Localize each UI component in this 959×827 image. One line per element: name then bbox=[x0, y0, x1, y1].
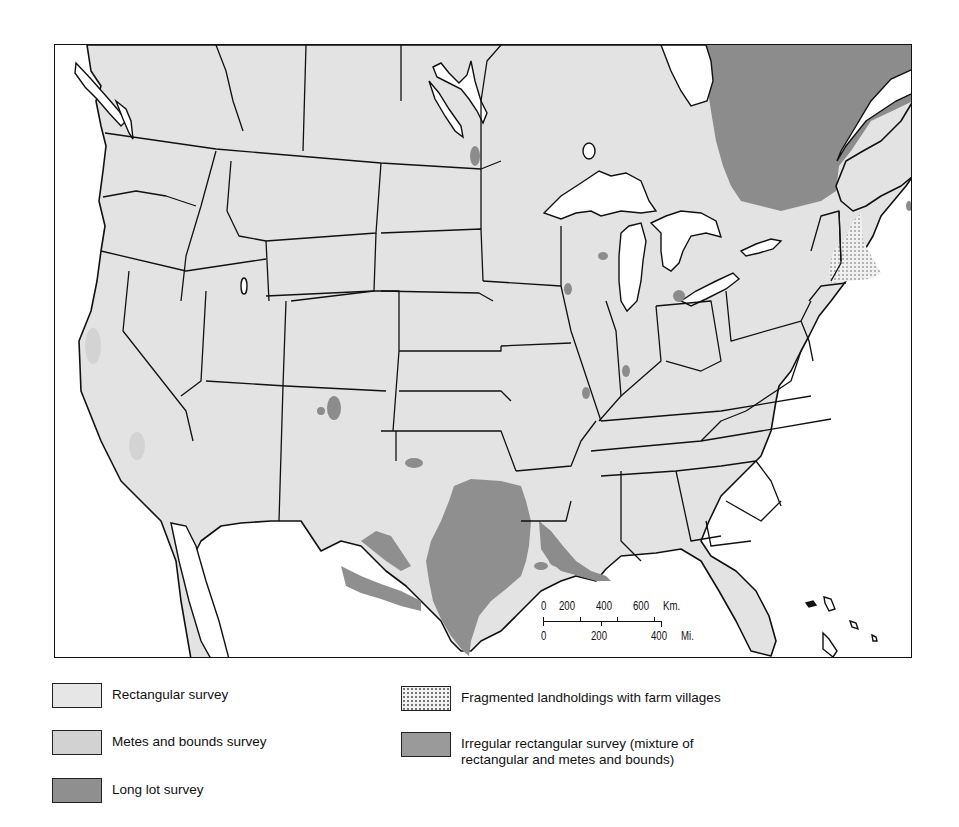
legend-item-rectangular: Rectangular survey bbox=[52, 683, 228, 708]
fragmented-swatch bbox=[401, 686, 451, 711]
legend-label: Metes and bounds survey bbox=[112, 734, 267, 750]
longlot-swatch bbox=[52, 778, 102, 803]
scale-tick bbox=[580, 617, 581, 622]
kaskaskia-long-lot bbox=[582, 387, 590, 399]
california-metes-patch bbox=[85, 328, 101, 364]
scale-km-200: 200 bbox=[559, 599, 575, 613]
island bbox=[806, 601, 816, 607]
island bbox=[824, 597, 835, 611]
detroit-long-lot bbox=[673, 290, 685, 302]
legend-item-irregular: Irregular rectangular survey (mixture of… bbox=[401, 732, 694, 768]
california-metes-patch2 bbox=[129, 432, 145, 460]
louisiana-long-lot-patch2 bbox=[534, 562, 548, 570]
legend-label: Fragmented landholdings with farm villag… bbox=[461, 690, 721, 706]
new-mexico-long-lot-small bbox=[317, 407, 325, 415]
legend-label-line1: Irregular rectangular survey (mixture of bbox=[461, 736, 694, 752]
scale-km-unit: Km. bbox=[663, 599, 680, 613]
scale-line bbox=[543, 621, 661, 622]
maine-long-lot bbox=[906, 201, 912, 211]
metes-swatch bbox=[52, 730, 102, 755]
scale-mi-400: 400 bbox=[651, 629, 667, 643]
legend-label: Irregular rectangular survey (mixture of… bbox=[461, 736, 694, 768]
vincennes-long-lot bbox=[622, 365, 630, 377]
legend-label: Long lot survey bbox=[112, 782, 204, 798]
scale-km-0: 0 bbox=[541, 599, 546, 613]
legend-item-fragmented: Fragmented landholdings with farm villag… bbox=[401, 686, 721, 711]
new-mexico-long-lot bbox=[327, 396, 341, 420]
scale-bar: 0 200 400 600 Km. 0 200 400 Mi. bbox=[541, 599, 721, 655]
survey-map bbox=[54, 44, 912, 658]
scale-tick bbox=[543, 617, 544, 626]
scale-km-600: 600 bbox=[633, 599, 649, 613]
scale-tick bbox=[601, 621, 602, 626]
scale-tick bbox=[654, 617, 655, 622]
louisiana-long-lot-patch bbox=[549, 555, 569, 567]
rectangular-swatch bbox=[52, 683, 102, 708]
irregular-swatch bbox=[401, 732, 451, 757]
scale-mi-unit: Mi. bbox=[681, 629, 694, 643]
island bbox=[850, 621, 858, 629]
map-frame: 0 200 400 600 Km. 0 200 400 Mi. bbox=[54, 44, 912, 658]
scale-km-400: 400 bbox=[596, 599, 612, 613]
scale-mi-0: 0 bbox=[541, 629, 546, 643]
great-salt-lake bbox=[241, 278, 247, 294]
lake-nipigon bbox=[583, 143, 595, 159]
scale-mi-200: 200 bbox=[591, 629, 607, 643]
island bbox=[872, 635, 877, 641]
red-river-long-lot bbox=[470, 146, 480, 166]
legend-label: Rectangular survey bbox=[112, 687, 228, 703]
legend-label-line2: rectangular and metes and bounds) bbox=[461, 752, 694, 768]
scale-tick bbox=[661, 621, 662, 627]
scale-tick bbox=[617, 617, 618, 622]
texas-panhandle-patch bbox=[405, 458, 423, 468]
prairie-du-chien-long-lot bbox=[564, 283, 572, 295]
legend-item-longlot: Long lot survey bbox=[52, 778, 204, 803]
island bbox=[823, 633, 837, 657]
green-bay-long-lot bbox=[598, 252, 608, 260]
legend-item-metes: Metes and bounds survey bbox=[52, 730, 267, 755]
